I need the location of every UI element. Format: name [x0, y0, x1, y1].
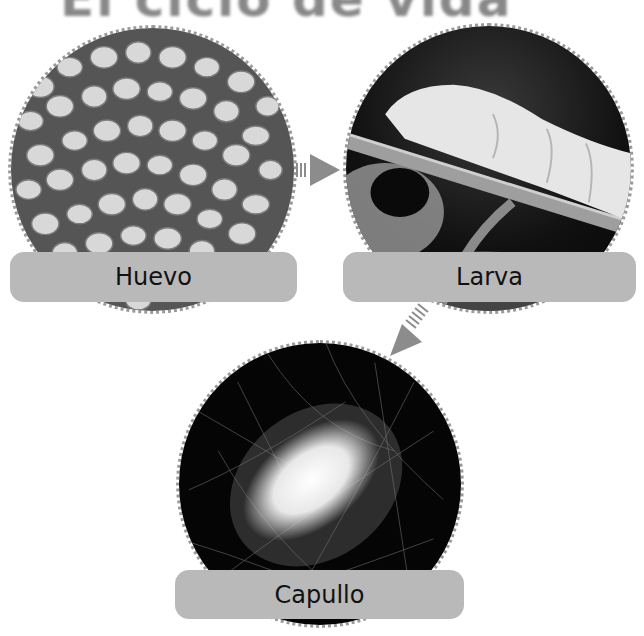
label-larva: Larva [343, 252, 636, 302]
arrow-larva-to-cocoon [388, 300, 438, 360]
diagram-title: El ciclo de vida [60, 0, 512, 28]
label-text: Larva [456, 263, 523, 291]
label-text: Capullo [275, 581, 365, 609]
label-huevo: Huevo [10, 252, 297, 302]
arrow-right-icon [296, 152, 342, 188]
arrow-down-left-icon [388, 300, 438, 360]
label-capullo: Capullo [175, 570, 464, 619]
arrow-egg-to-larva [296, 152, 342, 188]
life-cycle-diagram: El ciclo de vida [0, 0, 644, 636]
label-text: Huevo [115, 263, 192, 291]
